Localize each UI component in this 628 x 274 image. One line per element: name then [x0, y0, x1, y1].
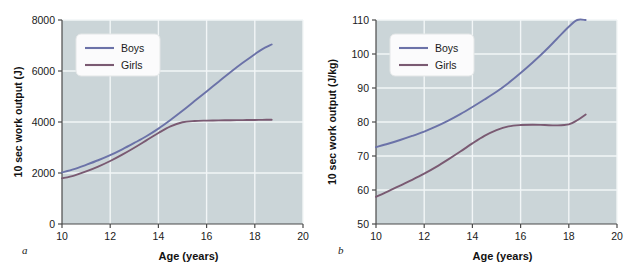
- y-axis-title: 10 sec work output (J): [12, 67, 24, 178]
- x-tick-label: 18: [249, 230, 261, 242]
- figure-container: 02000400060008000101214161820Age (years)…: [0, 0, 628, 274]
- y-tick-label: 6000: [32, 65, 56, 77]
- y-tick-label: 100: [351, 48, 369, 60]
- legend-box: [76, 34, 160, 76]
- y-tick-label: 8000: [32, 14, 56, 26]
- y-tick-label: 4000: [32, 116, 56, 128]
- legend: BoysGirls: [390, 34, 474, 76]
- chart-panel-b: 5060708090100110101214161820Age (years)1…: [314, 0, 628, 274]
- legend-box: [390, 34, 474, 76]
- y-tick-label: 0: [49, 218, 55, 230]
- x-tick-label: 12: [104, 230, 116, 242]
- y-tick-label: 60: [357, 184, 369, 196]
- y-tick-label: 80: [357, 116, 369, 128]
- y-axis-title: 10 sec work output (J/kg): [326, 59, 338, 185]
- x-tick-label: 20: [611, 230, 623, 242]
- x-tick-label: 16: [515, 230, 527, 242]
- x-axis-title: Age (years): [473, 250, 533, 262]
- legend-label-girls: Girls: [435, 59, 457, 71]
- x-axis-title: Age (years): [159, 250, 219, 262]
- x-tick-label: 12: [418, 230, 430, 242]
- x-tick-label: 14: [467, 230, 479, 242]
- x-tick-label: 14: [153, 230, 165, 242]
- legend: BoysGirls: [76, 34, 160, 76]
- x-tick-label: 10: [56, 230, 68, 242]
- chart-panel-a: 02000400060008000101214161820Age (years)…: [0, 0, 314, 274]
- legend-label-girls: Girls: [121, 59, 143, 71]
- legend-label-boys: Boys: [121, 42, 144, 54]
- y-tick-label: 90: [357, 82, 369, 94]
- panel-letter-a: a: [22, 244, 28, 256]
- chart-svg-a: 02000400060008000101214161820Age (years)…: [0, 0, 314, 274]
- panel-letter-b: b: [338, 244, 344, 256]
- x-tick-label: 10: [370, 230, 382, 242]
- legend-label-boys: Boys: [435, 42, 458, 54]
- chart-svg-b: 5060708090100110101214161820Age (years)1…: [314, 0, 628, 274]
- y-tick-label: 50: [357, 218, 369, 230]
- x-tick-label: 16: [201, 230, 213, 242]
- y-tick-label: 110: [352, 14, 369, 26]
- y-tick-label: 2000: [32, 167, 56, 179]
- y-tick-label: 70: [357, 150, 369, 162]
- x-tick-label: 20: [297, 230, 309, 242]
- x-tick-label: 18: [563, 230, 575, 242]
